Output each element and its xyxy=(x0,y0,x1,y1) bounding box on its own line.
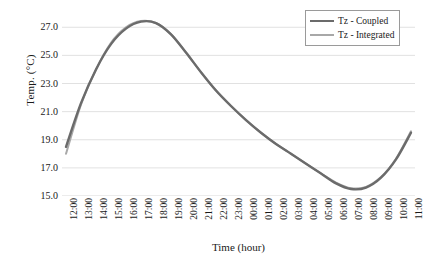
x-tick-label: 09:00 xyxy=(385,198,395,220)
x-tick-label: 14:00 xyxy=(100,198,110,220)
y-tick-label: 15.0 xyxy=(41,191,59,201)
x-tick-label: 05:00 xyxy=(325,198,335,220)
x-tick-label: 00:00 xyxy=(250,198,260,220)
y-tick-label: 25.0 xyxy=(41,50,59,60)
legend-color-swatch xyxy=(310,20,334,22)
x-tick-label: 11:00 xyxy=(415,198,425,219)
y-tick-label: 27.0 xyxy=(41,22,59,32)
x-tick-label: 18:00 xyxy=(160,198,170,220)
x-tick-label: 01:00 xyxy=(265,198,275,220)
x-tick-label: 04:00 xyxy=(310,198,320,220)
series-line xyxy=(66,21,411,189)
chart-legend: Tz - CoupledTz - Integrated xyxy=(305,10,400,46)
x-tick-label: 03:00 xyxy=(295,198,305,220)
x-tick-label: 23:00 xyxy=(235,198,245,220)
x-tick-label: 02:00 xyxy=(280,198,290,220)
y-tick-label: 17.0 xyxy=(41,163,59,173)
x-tick-label: 22:00 xyxy=(220,198,230,220)
legend-item[interactable]: Tz - Integrated xyxy=(310,28,394,42)
x-axis-title: Time (hour) xyxy=(62,241,415,253)
y-axis-tick-labels: 15.017.019.021.023.025.027.0 xyxy=(22,16,58,196)
x-tick-label: 15:00 xyxy=(115,198,125,220)
legend-item[interactable]: Tz - Coupled xyxy=(310,14,394,28)
x-tick-label: 17:00 xyxy=(145,198,155,220)
x-tick-label: 16:00 xyxy=(130,198,140,220)
y-tick-label: 23.0 xyxy=(41,79,59,89)
x-tick-label: 21:00 xyxy=(205,198,215,220)
x-tick-label: 19:00 xyxy=(175,198,185,220)
y-tick-label: 21.0 xyxy=(41,107,59,117)
x-tick-label: 08:00 xyxy=(370,198,380,220)
y-tick-label: 19.0 xyxy=(41,135,59,145)
legend-item-label: Tz - Coupled xyxy=(338,16,388,26)
temperature-line-chart: Temp. (°C) 15.017.019.021.023.025.027.0 … xyxy=(0,0,428,263)
x-tick-label: 06:00 xyxy=(340,198,350,220)
x-tick-label: 20:00 xyxy=(190,198,200,220)
legend-color-swatch xyxy=(310,34,334,36)
x-tick-label: 13:00 xyxy=(85,198,95,220)
x-axis-tick-labels: 12:0013:0014:0015:0016:0017:0018:0019:00… xyxy=(62,198,415,240)
x-tick-label: 10:00 xyxy=(400,198,410,220)
x-tick-label: 07:00 xyxy=(355,198,365,220)
x-tick-label: 12:00 xyxy=(70,198,80,220)
legend-item-label: Tz - Integrated xyxy=(338,30,394,40)
